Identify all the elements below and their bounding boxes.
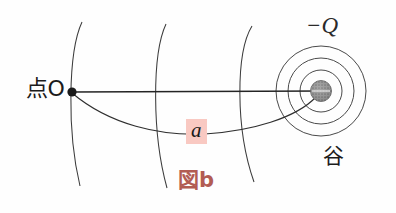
- label-path-a: a: [186, 119, 207, 144]
- label-valley-tani: 谷: [323, 146, 344, 167]
- physics-figure: 点O −Q 谷 a 図b: [0, 0, 396, 213]
- figure-caption: 図b: [178, 170, 214, 191]
- equipotential-arc-inner: [240, 26, 254, 182]
- straight-path-line: [72, 91, 323, 92]
- label-charge-q: −Q: [306, 14, 338, 37]
- label-point-o: 点O: [26, 78, 64, 100]
- equipotential-arc-middle: [156, 24, 167, 188]
- equipotential-arc-outer: [71, 22, 82, 186]
- point-o-dot: [67, 87, 76, 96]
- equipotential-arc-group: [71, 22, 254, 188]
